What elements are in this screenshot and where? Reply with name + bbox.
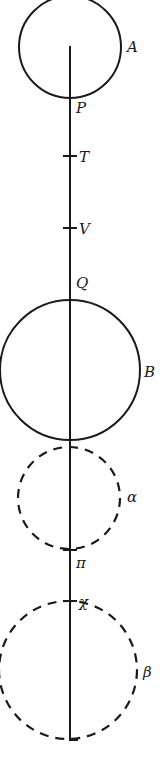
circle-label-alpha: α xyxy=(127,488,137,506)
geometry-diagram: ABαβPTVQπχ xyxy=(0,0,165,757)
labels-group: ABαβPTVQπχ xyxy=(75,38,155,681)
point-label-chi: χ xyxy=(78,593,89,611)
circle-label-beta: β xyxy=(142,663,152,681)
point-label-pi: π xyxy=(75,554,87,572)
circle-label-B: B xyxy=(143,363,155,381)
circle-label-A: A xyxy=(125,38,138,56)
point-label-V: V xyxy=(79,220,92,238)
circle-beta xyxy=(0,601,137,739)
point-label-Q: Q xyxy=(76,274,88,292)
point-label-P: P xyxy=(75,99,87,117)
point-label-T: T xyxy=(79,148,90,166)
